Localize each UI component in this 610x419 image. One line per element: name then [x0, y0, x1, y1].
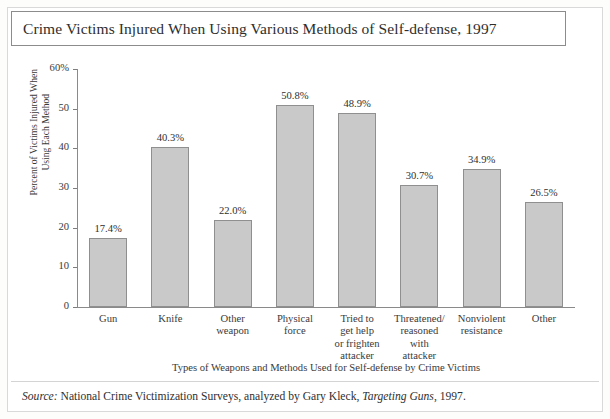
y-axis-tick-label: 50: [33, 102, 69, 113]
source-work-title: Targeting Guns: [362, 390, 434, 403]
figure-container: Crime Victims Injured When Using Various…: [0, 0, 610, 419]
y-axis-tick-mark: [73, 109, 77, 110]
bar-value-label: 48.9%: [322, 98, 392, 109]
bar: [463, 169, 501, 307]
x-axis-category-label: Other: [501, 313, 587, 325]
source-prefix: Source:: [22, 390, 58, 403]
y-axis-tick-mark: [73, 267, 77, 268]
bar-value-label: 50.8%: [260, 90, 330, 101]
y-axis-line: [77, 69, 78, 308]
x-axis-category-line: resistance: [439, 325, 525, 337]
plot-area: Percent of Victims Injured When Using Ea…: [0, 0, 610, 419]
y-axis-tick-label: 10: [33, 260, 69, 271]
bar: [151, 147, 189, 307]
y-axis-tick-label: 40: [33, 141, 69, 152]
x-axis-title: Types of Weapons and Methods Used for Se…: [77, 362, 575, 373]
y-axis-tick-label: 20: [33, 221, 69, 232]
bar-value-label: 40.3%: [135, 132, 205, 143]
bar: [276, 105, 314, 307]
y-axis-tick-mark: [73, 69, 77, 70]
bar-value-label: 30.7%: [384, 170, 454, 181]
y-axis-tick-mark: [73, 148, 77, 149]
y-axis-tick-mark: [73, 188, 77, 189]
y-axis-tick-label: 0: [33, 300, 69, 311]
bar: [338, 113, 376, 307]
bar: [400, 185, 438, 307]
y-axis-tick-label: 60%: [33, 62, 69, 73]
source-note: Source: National Crime Victimization Sur…: [22, 390, 466, 403]
x-axis-category-line: Other: [501, 313, 587, 325]
bar: [89, 238, 127, 307]
source-suffix: , 1997.: [434, 390, 466, 403]
bar: [525, 202, 563, 307]
bar-value-label: 26.5%: [509, 187, 579, 198]
source-body: National Crime Victimization Surveys, an…: [58, 390, 363, 403]
bar-value-label: 17.4%: [73, 223, 143, 234]
bar-value-label: 34.9%: [447, 154, 517, 165]
x-axis-category-line: attacker: [376, 350, 462, 362]
bar-value-label: 22.0%: [198, 205, 268, 216]
y-axis-tick-mark: [73, 307, 77, 308]
source-divider: [11, 381, 599, 382]
y-axis-tick-label: 30: [33, 181, 69, 192]
bar: [214, 220, 252, 307]
x-axis-category-line: with: [376, 338, 462, 350]
x-axis-line: [77, 307, 575, 308]
